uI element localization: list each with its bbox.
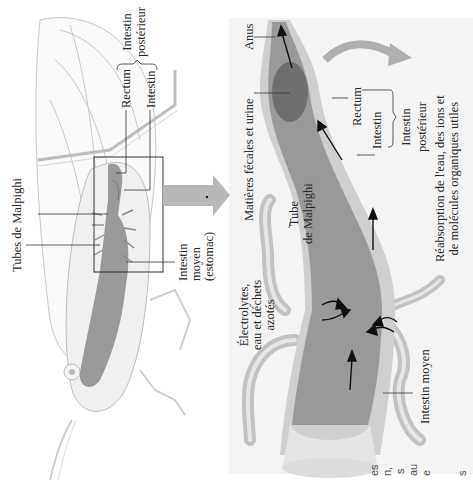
cropped-text-fragment: au bbox=[406, 464, 420, 476]
label-rectum-detail: Rectum bbox=[350, 87, 364, 126]
cropped-text-fragment: s bbox=[393, 469, 407, 475]
label-intestin-moyen-overview: Intestin moyen (estomac) bbox=[177, 232, 216, 281]
label-intestin-overview: Intestin bbox=[144, 71, 158, 109]
cropped-text-fragment: n, bbox=[380, 467, 394, 476]
zoom-arrow bbox=[163, 175, 230, 216]
label-intestin-moyen-detail: Intestin moyen bbox=[418, 349, 432, 424]
label-matieres-fecales: Matières fécales et urine bbox=[242, 98, 256, 221]
label-reabsorption: Réabsorption de l'eau, des ions et de mo… bbox=[433, 95, 461, 262]
label-intestin-detail: Intestin bbox=[370, 112, 384, 150]
label-intestin-posterieur-detail: Intestin postérieur bbox=[398, 102, 430, 152]
cropped-text-fragment: s bbox=[455, 471, 469, 477]
label-intestin-posterieur-overview: Intestin postérieur bbox=[120, 7, 148, 57]
label-electrolytes: Électrolytes, eau et déchets azotés bbox=[238, 280, 277, 350]
cropped-text-fragment: e bbox=[419, 470, 433, 476]
diagram-artwork bbox=[0, 0, 473, 480]
label-tube-malpighi: Tube de Malpighi bbox=[287, 183, 315, 244]
label-rectum-overview: Rectum bbox=[119, 69, 133, 108]
label-tubes-malpighi: Tubes de Malpighi bbox=[10, 178, 24, 272]
rectum-pouch bbox=[272, 62, 308, 122]
label-anus: Anus bbox=[242, 24, 256, 50]
cropped-text-fragment: es bbox=[367, 464, 381, 476]
